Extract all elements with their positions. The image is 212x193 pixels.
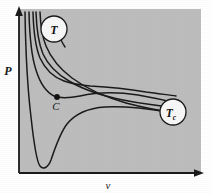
diagram-canvas: P v C T Tc [0, 0, 212, 193]
critical-point-label: C [52, 100, 60, 112]
callout-bubble-tc: Tc [160, 99, 186, 125]
pressure-axis-label: P [4, 64, 12, 78]
pv-isotherm-diagram: P v C T Tc [0, 0, 212, 193]
volume-axis-label: v [106, 179, 111, 191]
callout-bubble-t: T [41, 16, 67, 42]
callout-label-t: T [50, 23, 58, 37]
